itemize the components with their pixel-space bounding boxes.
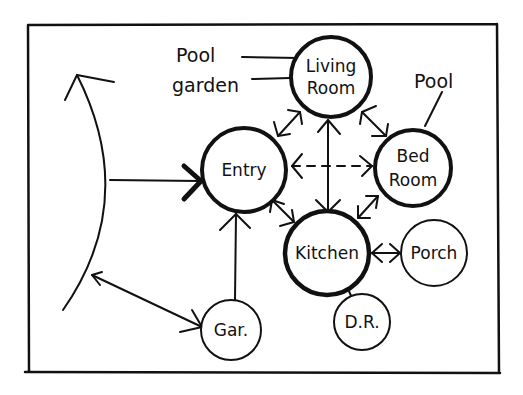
leader-garden [252, 78, 290, 79]
annotation-pool-left: Pool [176, 44, 215, 66]
edge-living-bed [362, 112, 386, 136]
node-entry: Entry [202, 128, 286, 212]
node-label: Gar. [214, 320, 248, 340]
street-curve [63, 75, 105, 310]
node-kitchen: Kitchen [285, 211, 369, 295]
node-label: D.R. [344, 312, 379, 332]
annotation-garden: garden [172, 74, 239, 96]
node-bed-room: Bed Room [375, 130, 451, 206]
node-label: Bed [397, 146, 430, 166]
edge-garage-entry [235, 214, 236, 300]
node-label: Porch [411, 243, 458, 263]
node-garage: Gar. [201, 300, 261, 360]
leader-pool-left [242, 57, 298, 58]
edge-street-entry [110, 180, 200, 181]
bubble-diagram: Living Room Entry Bed Room Kitchen Porch… [0, 0, 523, 395]
node-label: Living [306, 56, 357, 76]
edge-bed-kitchen [358, 196, 378, 218]
node-porch: Porch [401, 220, 467, 286]
arrowhead-icon [360, 106, 376, 124]
arrowhead-icon [184, 166, 201, 199]
node-label: Room [307, 78, 355, 98]
leader-pool-right [425, 92, 442, 126]
node-label: Kitchen [295, 243, 359, 263]
arrowhead-icon [280, 210, 294, 226]
annotation-pool-right: Pool [414, 70, 453, 92]
node-dining-room: D.R. [334, 294, 390, 350]
street-arrowhead-icon [65, 75, 114, 100]
node-living-room: Living Room [291, 37, 371, 117]
edge-street-garage [92, 275, 202, 327]
node-label: Entry [221, 160, 266, 180]
edge-entry-living [278, 112, 300, 136]
node-label: Room [389, 170, 437, 190]
